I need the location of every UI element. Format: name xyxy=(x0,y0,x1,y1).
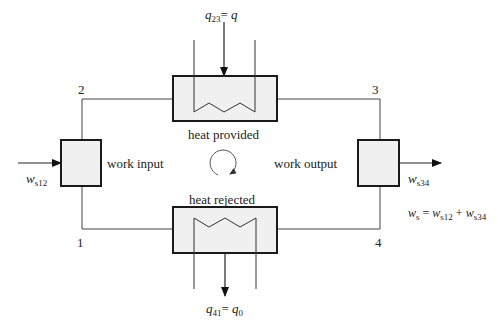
work-input-label: work input xyxy=(107,157,164,170)
net-work-equation: ws = ws12 + ws34 xyxy=(408,207,486,222)
heat-out-label: q41= q0 xyxy=(206,302,243,318)
cycle-diagram xyxy=(0,0,498,326)
heater-box xyxy=(173,22,277,121)
state-3-label: 3 xyxy=(372,83,379,96)
state-1-label: 1 xyxy=(77,236,84,249)
work-out-symbol: ws34 xyxy=(408,172,429,188)
state-4-label: 4 xyxy=(375,236,382,249)
cycle-direction-icon xyxy=(210,150,236,175)
cooler-box xyxy=(173,207,277,296)
heat-provided-label: heat provided xyxy=(188,128,259,141)
state-2-label: 2 xyxy=(78,83,85,96)
work-output-label: work output xyxy=(274,157,337,170)
heat-rejected-label: heat rejected xyxy=(189,193,255,206)
heat-in-label: q23= q xyxy=(205,8,238,24)
work-in-symbol: ws12 xyxy=(26,172,47,188)
